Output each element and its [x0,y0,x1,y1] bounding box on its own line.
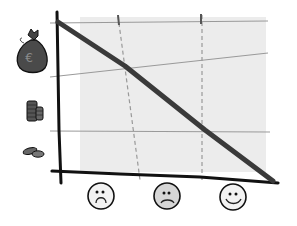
happy-face-icon [220,184,246,210]
loose-coins-icon [22,146,44,157]
shaded-panel [80,17,266,172]
unhappy-face-icon [154,183,180,209]
sad-face-icon [88,183,114,209]
y-axis [57,12,61,183]
x-axis [52,171,278,183]
diagram-canvas: € [0,0,297,226]
tick-top-1 [118,15,119,25]
coin-stack-icon [27,101,43,121]
euro-symbol: € [25,51,33,65]
money-bag-icon: € [17,29,47,73]
